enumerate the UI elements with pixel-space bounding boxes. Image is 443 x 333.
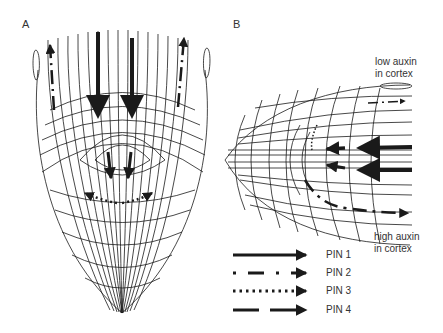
legend-lines — [233, 255, 306, 310]
pin1-arrow-left-top — [360, 147, 412, 148]
pin1-arrow-left-bottom-inner — [327, 165, 345, 168]
pin1-arrow-left-top-inner — [327, 148, 345, 149]
root-b-cells — [225, 83, 412, 245]
root-b-arrows — [305, 101, 412, 213]
pin2-arrow-up-right — [178, 38, 184, 107]
root-diagram — [0, 0, 443, 333]
pin1-arrow-qc-left — [108, 152, 111, 178]
root-a-cells — [33, 30, 210, 313]
root-a-arrows — [50, 32, 184, 203]
pin2-arrow-upper — [368, 101, 405, 103]
